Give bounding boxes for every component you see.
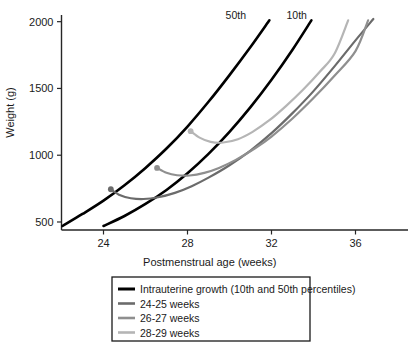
legend-label: 26-27 weeks xyxy=(140,312,200,324)
data-curve xyxy=(104,20,312,226)
curve-label-10th: 10th xyxy=(286,9,307,21)
data-curves-group xyxy=(63,19,374,226)
curve-annotations-group: 50th10th xyxy=(226,9,307,21)
legend-label: 24-25 weeks xyxy=(140,298,200,310)
legend-entries: Intrauterine growth (10th and 50th perce… xyxy=(118,283,355,339)
curve-start-marker xyxy=(154,165,160,171)
x-axis-ticks: 24283236 xyxy=(97,230,361,249)
x-tick-label: 24 xyxy=(97,237,109,249)
y-tick-label: 2000 xyxy=(29,16,53,28)
x-axis-title: Postmenstrual age (weeks) xyxy=(143,256,276,268)
x-tick-label: 36 xyxy=(349,237,361,249)
y-tick-label: 500 xyxy=(35,216,53,228)
y-tick-label: 1500 xyxy=(29,82,53,94)
y-tick-label: 1000 xyxy=(29,149,53,161)
legend: Intrauterine growth (10th and 50th perce… xyxy=(112,277,355,341)
y-axis-title: Weight (g) xyxy=(4,87,16,138)
x-tick-label: 32 xyxy=(265,237,277,249)
data-curve xyxy=(157,20,368,175)
chart-canvas: 500100015002000 24283236 50th10th Postme… xyxy=(0,0,420,347)
curve-start-marker xyxy=(188,128,194,134)
legend-label: Intrauterine growth (10th and 50th perce… xyxy=(140,283,355,295)
growth-chart-figure: 500100015002000 24283236 50th10th Postme… xyxy=(0,0,420,347)
curve-label-50th: 50th xyxy=(226,9,247,21)
y-axis-ticks: 500100015002000 xyxy=(29,16,61,228)
x-tick-label: 28 xyxy=(181,237,193,249)
data-curve xyxy=(111,19,374,199)
curve-start-marker xyxy=(108,186,114,192)
legend-label: 28-29 weeks xyxy=(140,327,200,339)
axes-group: 500100015002000 24283236 xyxy=(29,15,408,249)
